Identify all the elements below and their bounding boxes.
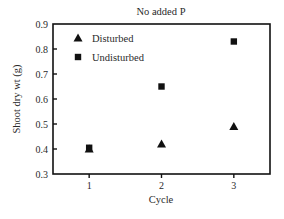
y-tick-label: 0.3: [36, 169, 49, 180]
y-tick-label: 0.6: [36, 94, 49, 105]
chart-title: No added P: [137, 6, 186, 17]
triangle-data-point: [157, 140, 166, 148]
x-tick-label: 1: [87, 180, 92, 191]
x-tick-label: 2: [159, 180, 164, 191]
y-axis-label: Shoot dry wt (g): [11, 64, 23, 134]
chart-canvas: No added P 0.30.40.50.60.70.80.9 123 Sho…: [0, 0, 284, 219]
scatter-chart: No added P 0.30.40.50.60.70.80.9 123 Sho…: [0, 0, 284, 219]
legend-label: Disturbed: [92, 33, 134, 44]
y-tick-label: 0.4: [36, 144, 49, 155]
legend: DisturbedUndisturbed: [74, 33, 145, 63]
x-axis-label: Cycle: [149, 194, 174, 205]
y-tick-label: 0.9: [36, 19, 49, 30]
triangle-data-point: [229, 122, 238, 130]
y-tick-label: 0.5: [36, 119, 49, 130]
triangle-legend-icon: [74, 34, 83, 42]
y-tick-label: 0.7: [36, 69, 49, 80]
x-tick-label: 3: [231, 180, 236, 191]
square-legend-icon: [75, 54, 81, 60]
square-data-point: [231, 38, 237, 44]
y-tick-label: 0.8: [36, 44, 49, 55]
legend-label: Undisturbed: [92, 52, 145, 63]
x-axis: 123: [87, 174, 237, 191]
square-data-point: [158, 83, 164, 89]
